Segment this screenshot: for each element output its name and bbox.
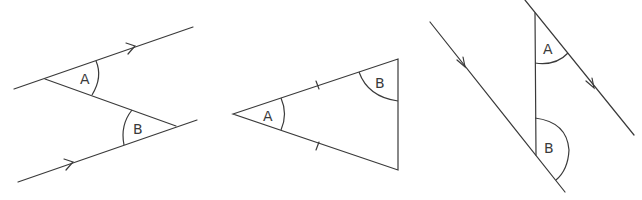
figure-isosceles-triangle: A B (233, 59, 398, 170)
angle-a-label: A (543, 41, 553, 57)
top-parallel-line (14, 27, 193, 89)
angle-b-arc (123, 110, 132, 145)
figure-parallel-lines-co-interior: A B (430, 0, 634, 192)
bottom-parallel-line (18, 120, 197, 182)
angle-b-label: B (544, 140, 554, 156)
angle-a-arc (281, 98, 285, 130)
angle-b-label: B (375, 75, 385, 91)
angle-a-label: A (263, 108, 273, 124)
angle-a-arc (92, 61, 99, 95)
transversal-line (45, 79, 176, 126)
triangle (233, 59, 398, 170)
angle-a-label: A (80, 71, 90, 87)
diagram-canvas: A B A B A B (0, 0, 642, 200)
parallel-arrow-icon (586, 78, 594, 88)
right-parallel-line (525, 0, 634, 135)
figure-parallel-lines-z: A B (14, 27, 197, 182)
angle-b-label: B (133, 121, 143, 137)
transversal-line (535, 13, 536, 155)
